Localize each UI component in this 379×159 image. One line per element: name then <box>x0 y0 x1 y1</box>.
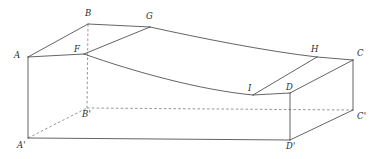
edge-A-F <box>28 54 84 57</box>
edge-H-C <box>317 57 353 60</box>
edge-F-G <box>84 27 150 54</box>
vertex-label-d: D <box>286 83 293 92</box>
vertex-label-g: G <box>146 12 153 21</box>
edge-B-G <box>88 24 150 27</box>
vertex-label-c: C <box>357 49 364 58</box>
geometry-canvas <box>0 0 379 159</box>
vertex-label-f: F <box>74 45 80 54</box>
vertex-label-b-prime: B' <box>82 110 91 119</box>
vertex-label-b: B <box>85 9 91 18</box>
vertex-label-i: I <box>248 84 251 93</box>
edge-Aprime-Bprime-hidden <box>28 108 87 138</box>
geometry-figure: ABGFHCIDA'B'C'D' <box>0 0 379 159</box>
vertex-label-c-prime: C' <box>357 112 366 121</box>
vertex-label-h: H <box>311 45 318 54</box>
vertex-label-d-prime: D' <box>286 142 296 151</box>
solid-edges-group <box>28 24 353 140</box>
edge-D-C <box>290 60 353 93</box>
curve-F-I-bottom <box>84 54 253 95</box>
vertex-label-a: A <box>14 51 20 60</box>
edge-Dprime-Cprime <box>290 110 353 140</box>
edge-I-D <box>253 93 290 95</box>
edge-B-Bprime-hidden <box>87 24 88 108</box>
edge-I-H <box>253 57 317 95</box>
curved-edges-group <box>84 27 317 95</box>
hidden-edges-group <box>28 24 353 138</box>
curve-G-H-top <box>150 27 317 57</box>
vertex-label-a-prime: A' <box>17 141 26 150</box>
edge-Bprime-Cprime-hidden <box>87 108 353 110</box>
edge-Aprime-Dprime <box>28 138 290 140</box>
